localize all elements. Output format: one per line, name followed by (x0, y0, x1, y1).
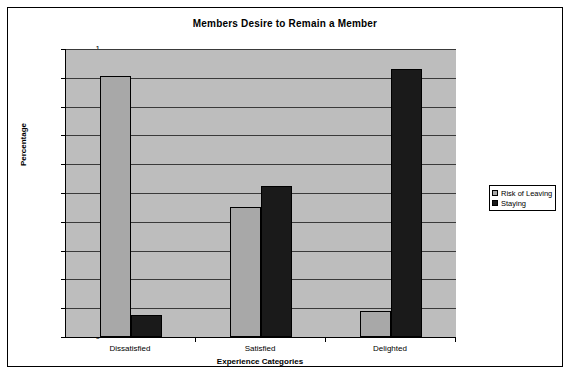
x-axis-tick-label: Satisfied (200, 344, 320, 353)
chart-legend: Risk of LeavingStaying (489, 185, 556, 211)
plot-area (65, 49, 456, 338)
gridline (66, 49, 456, 50)
bar-delighted-risk-of-leaving (360, 311, 391, 337)
legend-swatch-icon (492, 190, 498, 196)
bar-delighted-staying (391, 69, 422, 337)
chart-title: Members Desire to Remain a Member (8, 18, 562, 29)
legend-label: Risk of Leaving (501, 189, 552, 198)
bar-satisfied-risk-of-leaving (230, 207, 261, 337)
x-axis-tick-mark (195, 338, 196, 342)
x-axis-label: Experience Categories (65, 357, 455, 366)
bar-dissatisfied-risk-of-leaving (100, 76, 131, 337)
bar-satisfied-staying (261, 186, 292, 337)
legend-item-staying: Staying (492, 198, 552, 208)
legend-item-risk-of-leaving: Risk of Leaving (492, 188, 552, 198)
legend-swatch-icon (492, 200, 498, 206)
x-axis-tick-mark (455, 338, 456, 342)
y-axis-label: Percentage (19, 100, 28, 190)
chart-container: Members Desire to Remain a Member Percen… (7, 7, 563, 367)
bar-dissatisfied-staying (131, 315, 162, 337)
x-axis-tick-mark (325, 338, 326, 342)
x-axis-tick-label: Delighted (330, 344, 450, 353)
legend-label: Staying (501, 199, 526, 208)
x-axis-tick-label: Dissatisfied (70, 344, 190, 353)
